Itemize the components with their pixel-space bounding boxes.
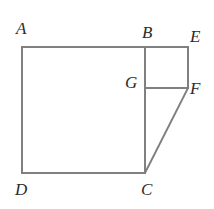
vertex-label-e: E — [190, 28, 200, 45]
vertex-label-a: A — [16, 20, 26, 37]
vertex-label-f: F — [190, 80, 200, 97]
geometry-canvas — [0, 0, 214, 209]
vertex-label-b: B — [142, 24, 152, 41]
square-abcd-outline — [22, 47, 145, 173]
vertex-label-c: C — [141, 181, 152, 198]
vertex-label-d: D — [15, 181, 27, 198]
geometry-figure: A B E G F D C — [0, 0, 214, 209]
vertex-label-g: G — [125, 74, 137, 91]
rectangle-befg-outline — [145, 47, 188, 88]
segment-cf-diagonal — [145, 88, 188, 173]
